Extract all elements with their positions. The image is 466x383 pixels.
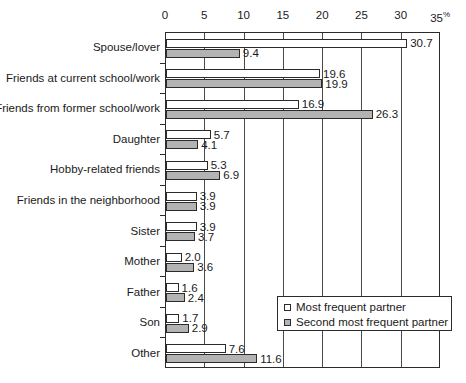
y-axis-minor-tick bbox=[160, 337, 165, 338]
y-axis-category-label: Sister bbox=[131, 224, 160, 237]
y-axis-category-label: Friends in the neighborhood bbox=[17, 194, 160, 207]
bar bbox=[166, 140, 198, 149]
y-axis-minor-tick bbox=[160, 307, 165, 308]
x-axis-top: 05101520253035% bbox=[165, 8, 440, 30]
bar bbox=[166, 253, 182, 262]
bar bbox=[166, 283, 179, 292]
bar-value-label: 19.9 bbox=[322, 77, 347, 90]
bar bbox=[166, 100, 299, 109]
bar bbox=[166, 222, 197, 231]
bar-value-label: 9.4 bbox=[240, 47, 259, 60]
y-axis-category-label: Hobby-related friends bbox=[50, 163, 160, 176]
x-axis-tick-label: 20 bbox=[316, 8, 329, 22]
bar bbox=[166, 293, 185, 302]
bar-value-label: 2.4 bbox=[185, 291, 204, 304]
y-axis-category-label: Daughter bbox=[113, 132, 160, 145]
y-axis-category-labels: Spouse/loverFriends at current school/wo… bbox=[0, 32, 160, 368]
bar bbox=[166, 324, 189, 333]
bar-value-label: 2.9 bbox=[189, 322, 208, 335]
y-axis-category-label: Father bbox=[127, 285, 160, 298]
white-square-icon bbox=[284, 304, 291, 311]
y-axis-minor-tick bbox=[160, 246, 165, 247]
y-axis-category-label: Spouse/lover bbox=[93, 41, 160, 54]
bar-value-label: 3.7 bbox=[195, 230, 214, 243]
legend-item-second-most-frequent-partner: Second most frequent partner bbox=[284, 315, 451, 329]
x-axis-tick-label: 35% bbox=[430, 8, 450, 25]
x-axis-tick-label: 25 bbox=[355, 8, 368, 22]
y-axis-minor-tick bbox=[160, 185, 165, 186]
bar bbox=[166, 69, 320, 78]
bar-value-label: 30.7 bbox=[407, 37, 432, 50]
x-axis-tick-label: 30 bbox=[394, 8, 407, 22]
bar bbox=[166, 39, 407, 48]
bar bbox=[166, 110, 373, 119]
bar-value-label: 11.6 bbox=[257, 352, 282, 365]
horizontal-bar-chart: 05101520253035% Spouse/loverFriends at c… bbox=[0, 0, 466, 383]
bar bbox=[166, 49, 240, 58]
y-axis-category-label: Son bbox=[140, 316, 160, 329]
y-axis-minor-tick bbox=[160, 63, 165, 64]
bar-value-label: 6.9 bbox=[220, 169, 239, 182]
bar bbox=[166, 192, 197, 201]
y-axis-minor-tick bbox=[160, 276, 165, 277]
x-axis-tick-label: 10 bbox=[237, 8, 250, 22]
percent-unit-label: % bbox=[443, 10, 450, 19]
chart-legend: Most frequent partner Second most freque… bbox=[277, 296, 452, 331]
y-axis-category-label: Other bbox=[131, 346, 160, 359]
y-axis-category-label: Friends at current school/work bbox=[6, 71, 160, 84]
bar bbox=[166, 161, 208, 170]
bar bbox=[166, 344, 226, 353]
legend-item-label: Second most frequent partner bbox=[296, 316, 448, 329]
bar bbox=[166, 232, 195, 241]
y-axis-minor-tick bbox=[160, 124, 165, 125]
y-axis-category-label: Mother bbox=[124, 255, 160, 268]
bar bbox=[166, 263, 194, 272]
bar bbox=[166, 202, 197, 211]
x-axis-tick-label: 15 bbox=[276, 8, 289, 22]
y-axis-minor-tick bbox=[160, 93, 165, 94]
bar-value-label: 26.3 bbox=[373, 108, 398, 121]
bar-value-label: 3.6 bbox=[194, 261, 213, 274]
bar-value-label: 4.1 bbox=[198, 138, 217, 151]
y-axis-minor-tick bbox=[160, 215, 165, 216]
legend-item-most-frequent-partner: Most frequent partner bbox=[284, 300, 451, 314]
bar bbox=[166, 171, 220, 180]
x-axis-tick-label: 5 bbox=[201, 8, 207, 22]
bar bbox=[166, 314, 179, 323]
bar-value-label: 3.9 bbox=[197, 200, 216, 213]
y-axis-category-label: Friends from former school/work bbox=[0, 102, 160, 115]
x-axis-tick-label: 0 bbox=[162, 8, 168, 22]
y-axis-minor-tick bbox=[160, 154, 165, 155]
bar bbox=[166, 79, 322, 88]
bar bbox=[166, 354, 257, 363]
gray-square-icon bbox=[284, 319, 291, 326]
legend-item-label: Most frequent partner bbox=[296, 301, 406, 314]
